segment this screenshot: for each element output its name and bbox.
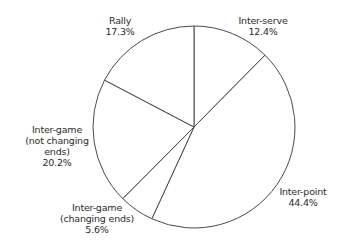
changing-value: 5.6% [52,224,142,235]
not-changing-line1: Inter-game [22,124,92,135]
inter-point-value: 44.4% [268,197,338,208]
changing-line1: Inter-game [52,202,142,213]
inter-point-name: Inter-point [268,186,338,197]
not-changing-line2: (not changing [22,135,92,146]
not-changing-line3: ends) [22,146,92,157]
changing-line2: (changing ends) [52,213,142,224]
rally-value: 17.3% [96,26,144,37]
not-changing-value: 20.2% [22,157,92,168]
label-inter-game-changing: Inter-game (changing ends) 5.6% [52,202,142,235]
label-inter-game-not-changing: Inter-game (not changing ends) 20.2% [22,124,92,168]
inter-serve-value: 12.4% [228,26,298,37]
label-inter-serve: Inter-serve 12.4% [228,15,298,37]
label-rally: Rally 17.3% [96,15,144,37]
pie-slices [93,26,295,228]
inter-serve-name: Inter-serve [228,15,298,26]
label-inter-point: Inter-point 44.4% [268,186,338,208]
rally-name: Rally [96,15,144,26]
